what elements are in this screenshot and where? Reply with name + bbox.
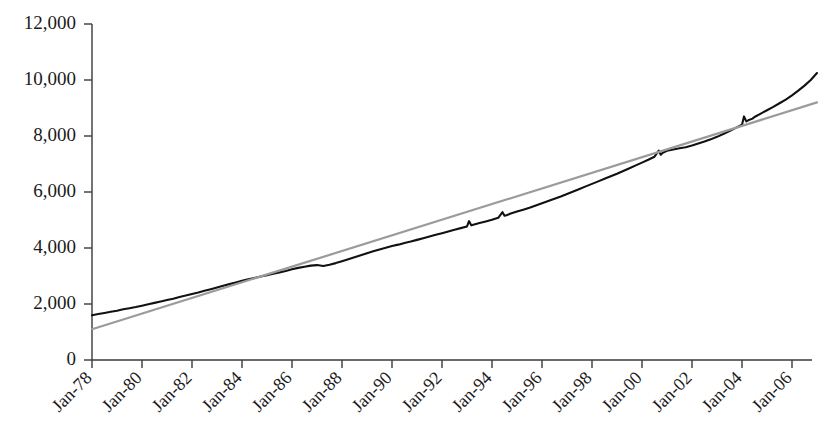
y-tick-label: 12,000 bbox=[24, 12, 76, 33]
y-tick-label: 6,000 bbox=[33, 180, 76, 201]
x-tick-label: Jan-84 bbox=[198, 368, 246, 416]
y-tick-label: 10,000 bbox=[24, 68, 76, 89]
x-tick-label: Jan-80 bbox=[98, 368, 146, 416]
x-tick-label: Jan-94 bbox=[448, 368, 496, 416]
x-tick-label: Jan-96 bbox=[498, 368, 546, 416]
trend-line bbox=[92, 102, 817, 329]
x-tick-label: Jan-04 bbox=[698, 368, 746, 416]
data-line bbox=[92, 73, 817, 315]
x-tick-label: Jan-98 bbox=[548, 368, 596, 416]
x-tick-label: Jan-78 bbox=[48, 368, 96, 416]
x-tick-label: Jan-06 bbox=[748, 368, 796, 416]
x-tick-label: Jan-88 bbox=[298, 368, 346, 416]
chart-page: 02,0004,0006,0008,00010,00012,000 Jan-78… bbox=[0, 0, 826, 444]
line-chart: 02,0004,0006,0008,00010,00012,000 Jan-78… bbox=[0, 0, 826, 444]
x-tick-label: Jan-90 bbox=[348, 368, 396, 416]
y-tick-label: 0 bbox=[67, 348, 77, 369]
y-tick-label: 2,000 bbox=[33, 292, 76, 313]
y-tick-label: 8,000 bbox=[33, 124, 76, 145]
x-tick-label: Jan-02 bbox=[648, 368, 696, 416]
x-tick-label: Jan-92 bbox=[398, 368, 446, 416]
x-axis: Jan-78Jan-80Jan-82Jan-84Jan-86Jan-88Jan-… bbox=[48, 360, 796, 416]
x-tick-label: Jan-86 bbox=[248, 368, 296, 416]
x-tick-label: Jan-00 bbox=[598, 368, 646, 416]
x-tick-label: Jan-82 bbox=[148, 368, 196, 416]
y-tick-label: 4,000 bbox=[33, 236, 76, 257]
y-axis: 02,0004,0006,0008,00010,00012,000 bbox=[24, 12, 92, 369]
plot-area bbox=[92, 73, 817, 329]
